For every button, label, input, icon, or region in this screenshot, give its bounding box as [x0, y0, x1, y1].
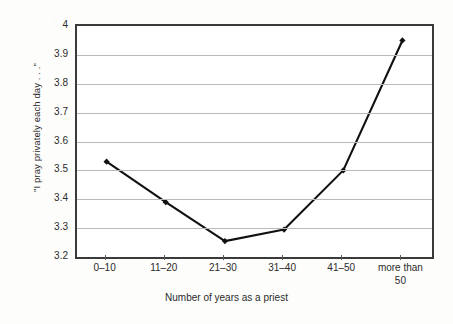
- gridline: [77, 55, 432, 56]
- gridline: [77, 199, 432, 200]
- gridline: [77, 84, 432, 85]
- gridline: [77, 228, 432, 229]
- x-axis-title: Number of years as a priest: [0, 292, 453, 303]
- x-axis-tick-mark: [223, 255, 224, 260]
- x-axis-tick-label-line: 50: [355, 275, 445, 288]
- gridline: [77, 142, 432, 143]
- chart-figure: "I pray privately each day . . ." 43.93.…: [0, 0, 453, 324]
- y-axis-tick-label: 3.4: [34, 192, 73, 203]
- x-axis-tick-label: more than50: [355, 262, 445, 287]
- y-axis-tick-label: 3.6: [34, 134, 73, 145]
- x-axis-tick-mark: [105, 255, 106, 260]
- x-axis-tick-mark: [341, 255, 342, 260]
- y-axis-tick-label: 4: [34, 19, 73, 30]
- y-axis-tick-label: 3.5: [34, 163, 73, 174]
- plot-area: [75, 24, 434, 259]
- gridline: [77, 170, 432, 171]
- y-axis-tick-labels: 43.93.83.73.63.53.43.33.2: [34, 0, 73, 324]
- y-axis-tick-label: 3.2: [34, 250, 73, 261]
- gridline: [77, 113, 432, 114]
- y-axis-tick-label: 3.8: [34, 76, 73, 87]
- x-axis-tick-mark: [282, 255, 283, 260]
- y-axis-tick-label: 3.9: [34, 47, 73, 58]
- x-axis-tick-label-line: more than: [355, 262, 445, 275]
- x-axis-tick-mark: [164, 255, 165, 260]
- x-axis-tick-mark: [400, 255, 401, 260]
- data-point-marker: [399, 37, 405, 43]
- y-axis-tick-label: 3.3: [34, 221, 73, 232]
- y-axis-tick-label: 3.7: [34, 105, 73, 116]
